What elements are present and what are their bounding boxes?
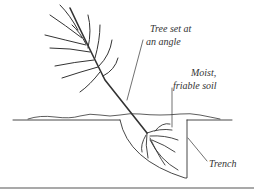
tree-roots — [142, 124, 179, 170]
tree-crown — [45, 5, 118, 92]
label-soil-line1: Moist, — [191, 67, 216, 79]
soil-surface — [28, 114, 220, 119]
label-tree-line1: Tree set at — [150, 23, 191, 35]
label-trench: Trench — [209, 158, 236, 170]
tree-trunk — [70, 8, 147, 133]
label-soil-line2: friable soil — [173, 80, 217, 92]
label-tree-line2: an angle — [146, 36, 181, 48]
leader-trench — [188, 138, 207, 161]
leader-tree — [127, 40, 143, 100]
